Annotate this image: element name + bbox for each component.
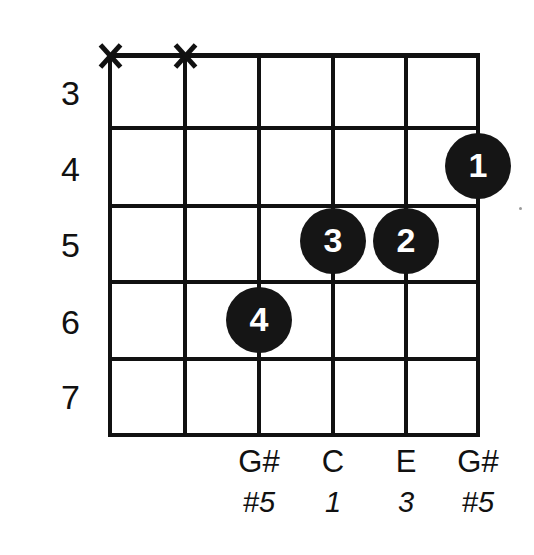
interval-label-string-6: #5 — [433, 488, 523, 517]
string-line-2 — [183, 55, 187, 437]
fret-line-bottom — [108, 433, 480, 437]
chord-diagram: 3 4 5 6 7 1 2 3 4 G# C E G# #5 1 3 #5 — [0, 0, 534, 555]
finger-dot-label: 1 — [469, 148, 488, 182]
fret-number-3: 3 — [24, 76, 80, 110]
fret-number-6: 6 — [24, 305, 80, 339]
muted-string-marker-1 — [95, 41, 125, 71]
finger-dot-2: 2 — [373, 208, 439, 274]
note-label-string-6: G# — [433, 446, 523, 477]
fret-number-7: 7 — [24, 380, 80, 414]
finger-dot-label: 4 — [250, 302, 269, 336]
muted-string-marker-2 — [170, 41, 200, 71]
finger-dot-1: 1 — [445, 133, 511, 199]
finger-dot-4: 4 — [226, 287, 292, 353]
string-line-6 — [476, 55, 480, 437]
fret-number-4: 4 — [24, 152, 80, 186]
finger-dot-label: 2 — [397, 223, 416, 257]
fret-line-top — [108, 53, 480, 58]
finger-dot-label: 3 — [324, 223, 343, 257]
fret-line-6-7 — [108, 357, 480, 361]
finger-dot-3: 3 — [300, 208, 366, 274]
fret-line-4-5 — [108, 204, 480, 208]
scan-speck — [519, 207, 522, 210]
fret-line-3-4 — [108, 126, 480, 130]
string-line-3 — [257, 55, 261, 437]
fret-line-5-6 — [108, 280, 480, 284]
string-line-1 — [108, 55, 112, 437]
fret-number-5: 5 — [24, 228, 80, 262]
